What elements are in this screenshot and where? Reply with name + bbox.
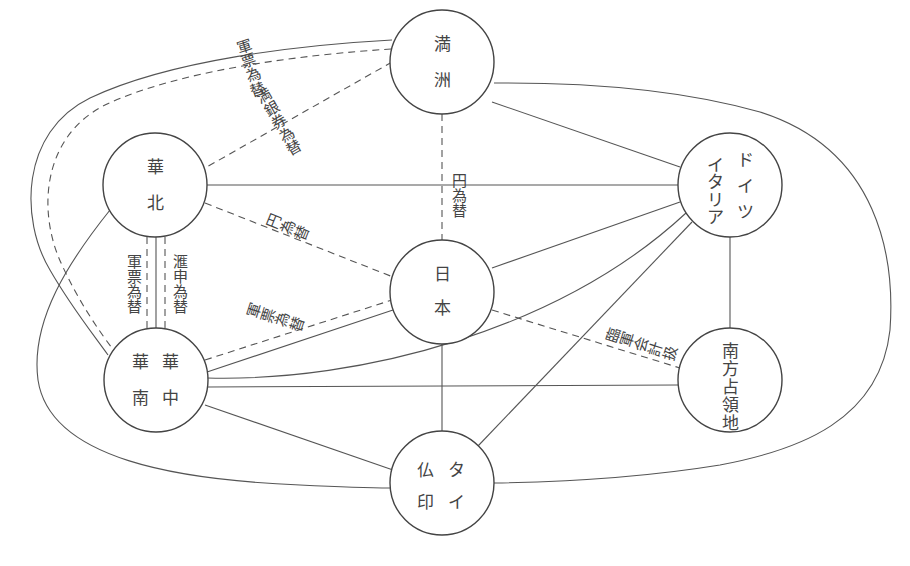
- edge-label-kanshin: 滙申為替: [170, 254, 188, 314]
- node-label-char: タ: [707, 172, 724, 192]
- node-futsuin-thai: タ イ 仏 印: [390, 431, 494, 535]
- node-label-char: 印: [417, 492, 434, 512]
- edge-manshu-outer-arc: [494, 83, 891, 483]
- node-nihon: 日 本: [390, 240, 494, 344]
- node-label-char: 南: [722, 341, 739, 361]
- node-circle: [390, 431, 494, 535]
- node-label-char: 占: [722, 377, 739, 397]
- node-kachu-kanan: 華 中 華 南: [104, 328, 208, 432]
- edge-label-mangin: 満銀券為替: [251, 85, 304, 159]
- edge-label-en-vertical: 円為替: [449, 173, 467, 218]
- edge-label-gunpyo-left: 軍票為替: [124, 254, 142, 314]
- node-label-char: 領: [722, 395, 739, 415]
- node-label-char: イ: [448, 492, 465, 512]
- node-manshu: 満 洲: [390, 10, 494, 114]
- node-label-char: イ: [737, 176, 754, 196]
- edge-nihon-nanpo-rinji: [492, 310, 680, 368]
- edge-label-text: 円為替: [263, 211, 311, 245]
- edge-manshu-kachu-loop: [31, 40, 392, 355]
- node-circle: [104, 328, 208, 432]
- edge-kachu-futsuin: [205, 405, 393, 470]
- node-circle: [390, 240, 494, 344]
- node-label-char: 本: [434, 298, 451, 318]
- edge-label-text: 軍票為替: [124, 254, 142, 314]
- edge-label-gunpyo-mid: 軍票為替: [244, 300, 307, 336]
- edge-label-en-diag: 円為替: [263, 211, 311, 245]
- node-label-char: 華: [132, 352, 149, 372]
- node-label-char: 華: [162, 352, 179, 372]
- node-circle: [103, 133, 207, 237]
- node-label-char: 仏: [417, 460, 434, 480]
- edge-label-text: 円為替: [449, 173, 467, 218]
- node-label-char: 方: [722, 359, 739, 379]
- node-label-char: 南: [132, 388, 149, 408]
- node-nanpo: 南 方 占 領 地: [678, 328, 782, 433]
- node-label-char: ア: [707, 207, 724, 227]
- node-label-char: 洲: [434, 70, 451, 90]
- edge-germany-futsuin: [478, 222, 692, 446]
- node-label-char: ツ: [737, 202, 754, 222]
- edge-kachu-nanpo: [208, 385, 678, 387]
- trade-settlement-network-diagram: 満 洲 華 北 ド イ ツ イ タ リ ア 日 本 華 中 華 南 南 方 占 …: [0, 0, 910, 566]
- edge-kahoku-futsuin-loop: [37, 210, 390, 488]
- node-label-char: 北: [147, 193, 164, 213]
- edge-manshu-kachu-gunpyo: [48, 49, 391, 352]
- edge-label-rinji: 臨軍会計扱: [603, 325, 681, 366]
- edge-nihon-germany: [492, 202, 680, 268]
- edge-label-text: 滙申為替: [170, 254, 188, 314]
- node-label-char: 地: [722, 413, 739, 433]
- node-label-char: 満: [434, 34, 451, 54]
- node-label-char: タ: [448, 460, 465, 480]
- node-label-char: 日: [434, 264, 451, 284]
- node-label-char: 華: [147, 157, 164, 177]
- edge-label-text: 満銀券為替: [251, 85, 304, 159]
- node-circle: [390, 10, 494, 114]
- edge-manshu-germany: [492, 102, 680, 167]
- node-label-char: 中: [162, 388, 179, 408]
- edge-label-text: 軍票為替: [244, 300, 307, 336]
- node-germany-italy: ド イ ツ イ タ リ ア: [678, 133, 782, 237]
- node-kahoku: 華 北: [103, 133, 207, 237]
- edge-label-text: 臨軍会計扱: [603, 325, 681, 366]
- node-label-char: ド: [737, 150, 754, 170]
- node-circle: [678, 133, 782, 237]
